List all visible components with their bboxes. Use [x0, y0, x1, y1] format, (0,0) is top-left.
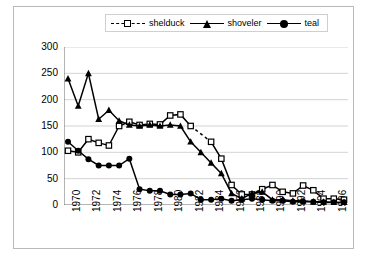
data-point: [106, 143, 111, 148]
data-point: [228, 190, 235, 196]
data-point: [65, 148, 70, 153]
data-point: [96, 163, 102, 169]
data-point: [126, 156, 132, 162]
y-tick-label: 100: [32, 147, 58, 157]
data-point: [270, 182, 275, 187]
data-point: [188, 190, 194, 196]
legend-item-shelduck: shelduck: [111, 18, 188, 29]
data-point: [75, 148, 81, 154]
plot-area: [64, 47, 348, 205]
data-point: [116, 163, 122, 169]
data-point: [269, 198, 275, 204]
data-point: [219, 156, 224, 161]
y-tick-label: 0: [32, 200, 58, 210]
data-point: [96, 140, 101, 145]
y-tick-label: 300: [32, 42, 58, 52]
data-point: [106, 163, 112, 169]
data-point: [177, 191, 183, 197]
data-point: [105, 107, 112, 113]
data-point: [65, 75, 72, 81]
legend-item-shoveler: shoveler: [190, 18, 265, 29]
y-tick-label: 150: [32, 121, 58, 131]
data-point: [167, 191, 173, 197]
data-point: [168, 113, 173, 118]
legend-item-teal: teal: [267, 18, 323, 29]
data-point: [86, 136, 91, 141]
data-point: [229, 198, 235, 204]
y-tick-label: 50: [32, 174, 58, 184]
data-point: [116, 123, 121, 128]
data-point: [208, 139, 213, 144]
data-point: [310, 199, 316, 205]
legend-label-shelduck: shelduck: [146, 18, 188, 28]
data-point: [249, 196, 255, 202]
legend-label-shoveler: shoveler: [225, 18, 265, 28]
data-point: [65, 139, 71, 145]
data-point: [147, 188, 153, 194]
filled-circle-icon: [267, 18, 301, 29]
chart-figure: shelduck shoveler teal number of breedin…: [0, 0, 367, 256]
data-point: [198, 197, 204, 203]
data-point: [188, 123, 193, 128]
data-point: [280, 198, 286, 204]
data-point: [137, 186, 143, 192]
data-point: [290, 191, 295, 196]
open-square-icon: [111, 18, 145, 29]
data-point: [290, 199, 296, 205]
data-point: [239, 197, 245, 203]
data-point: [85, 156, 91, 162]
data-point: [218, 196, 224, 202]
data-point: [229, 182, 234, 187]
data-point: [75, 102, 82, 108]
y-tick-label: 250: [32, 68, 58, 78]
y-tick-label: 200: [32, 95, 58, 105]
data-point: [178, 112, 183, 117]
data-point: [300, 183, 305, 188]
data-point: [259, 197, 265, 203]
chart-legend: shelduck shoveler teal: [105, 14, 328, 32]
data-point: [157, 188, 163, 194]
series-canvas: [64, 47, 348, 205]
data-point: [300, 199, 306, 205]
data-point: [280, 189, 285, 194]
data-point: [311, 188, 316, 193]
filled-triangle-icon: [190, 18, 224, 29]
legend-label-teal: teal: [302, 18, 323, 28]
data-point: [208, 197, 214, 203]
